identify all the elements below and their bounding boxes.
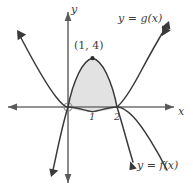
vertex-point-dot — [90, 56, 94, 60]
curve-g-right-branch — [117, 27, 166, 107]
graph-figure: y = g(x) y = f(x) x y (1, 4) 1 2 — [0, 0, 193, 192]
curve-label-g: y = g(x) — [118, 13, 162, 24]
curve-label-f: y = f(x) — [137, 160, 178, 171]
shaded-region — [68, 58, 117, 111]
vertex-point-label: (1, 4) — [74, 40, 104, 51]
x-axis-label: x — [178, 106, 184, 117]
x-axis-arrow-right — [165, 104, 174, 111]
y-axis-label: y — [71, 4, 77, 15]
x-axis-arrow-left — [8, 104, 17, 111]
curve-f-arrow-lower-left — [49, 169, 58, 177]
y-axis-arrow-down — [65, 174, 72, 183]
x-tick-label-2: 2 — [114, 112, 120, 122]
x-tick-label-1: 1 — [89, 112, 95, 122]
